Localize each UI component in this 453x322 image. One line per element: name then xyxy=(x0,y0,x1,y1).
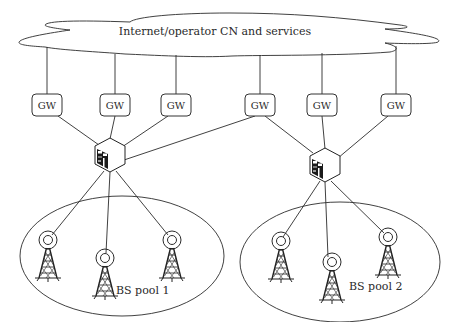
pool-label: BS pool 1 xyxy=(116,284,169,297)
gateway-3: GW xyxy=(245,94,275,116)
network-diagram: Internet/operator CN and services GW GW xyxy=(0,0,453,322)
bs-pool-1: BS pool 1 xyxy=(20,196,224,316)
gateway-label: GW xyxy=(251,100,270,111)
router-icon xyxy=(310,148,340,182)
gateway-label: GW xyxy=(106,100,125,111)
cell-tower-icon xyxy=(319,253,345,304)
router-icon xyxy=(95,138,125,172)
cloud-label: Internet/operator CN and services xyxy=(119,25,312,38)
router-tower-links xyxy=(52,171,384,257)
gateway-label: GW xyxy=(167,100,186,111)
gateway-5: GW xyxy=(381,94,411,116)
gateway-1: GW xyxy=(100,94,130,116)
cell-tower-icon xyxy=(159,231,185,282)
cell-tower-icon xyxy=(35,231,61,282)
gateway-0: GW xyxy=(32,94,62,116)
gateway-label: GW xyxy=(387,100,406,111)
cell-tower-icon xyxy=(268,232,294,283)
pool-label: BS pool 2 xyxy=(349,280,402,293)
cell-tower-icon xyxy=(375,228,401,279)
gateway-4: GW xyxy=(307,94,337,116)
cloud-gw-links xyxy=(47,46,396,94)
bs-pool-2: BS pool 2 xyxy=(240,202,440,322)
cell-tower-icon xyxy=(92,249,118,300)
gateway-label: GW xyxy=(38,100,57,111)
gateway-label: GW xyxy=(313,100,332,111)
cloud: Internet/operator CN and services xyxy=(19,13,439,57)
gateway-2: GW xyxy=(161,94,191,116)
